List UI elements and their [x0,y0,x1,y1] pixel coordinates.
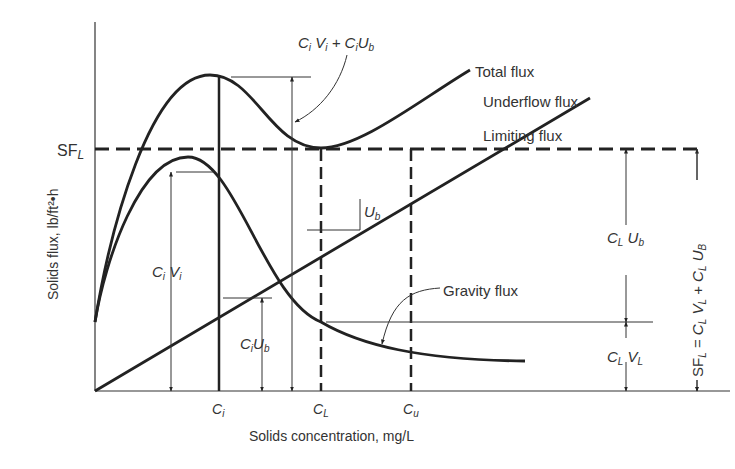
label-limiting-flux: Limiting flux [483,127,563,144]
annotation-cl-vl: CL VL [607,348,643,367]
x-axis-title: Solids concentration, mg/L [249,428,414,444]
label-gravity-flux: Gravity flux [443,282,519,299]
ub-slope-triangle [307,199,360,230]
y-axis-title: Solids flux, lb/ft²•h [45,188,61,300]
label-total-flux: Total flux [475,63,535,80]
label-underflow-flux: Underflow flux [483,93,579,110]
annotation-ci-vi: Ci Vi [152,263,182,282]
annotation-ci-ub: CiUb [240,335,270,354]
ci-tick-label: Ci [212,401,225,419]
annotation-top-formula: Ci Vi + CiUb [298,34,375,53]
cl-tick-label: CL [313,401,329,419]
annotation-cl-ub: CL Ub [607,229,644,248]
annotation-ub-slope: Ub [364,203,381,222]
sfl-tick-label: SFL [57,142,84,162]
cu-tick-label: Cu [403,401,419,419]
gravity-flux-curve [95,157,525,361]
solids-flux-diagram: Total flux Underflow flux Limiting flux … [0,0,735,469]
